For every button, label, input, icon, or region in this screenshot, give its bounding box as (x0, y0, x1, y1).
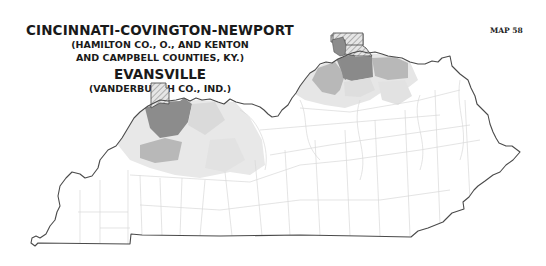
dearborn-county-dark (332, 37, 346, 56)
shaded-counties (118, 52, 418, 178)
kentucky-state-outline (31, 51, 520, 246)
kentucky-map (0, 0, 546, 266)
kenton-campbell-counties-dark (340, 56, 373, 81)
